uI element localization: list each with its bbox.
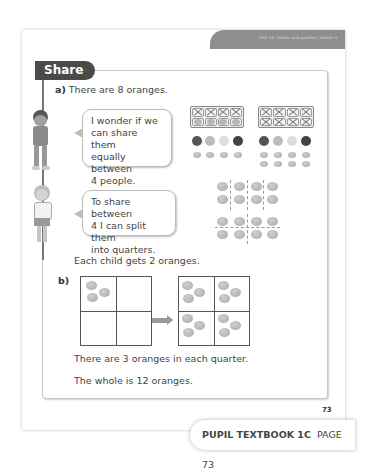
bubble-line: To share between <box>91 196 167 220</box>
orange-icon <box>302 152 310 158</box>
orange-icon <box>288 152 296 158</box>
orange-icon <box>194 321 205 330</box>
child-face-icon <box>273 136 283 146</box>
child-face-icon <box>205 136 215 146</box>
orange-icon <box>260 161 268 167</box>
orange-icon <box>234 152 242 158</box>
bubble-line: 4 people. <box>91 175 163 187</box>
orange-icon <box>193 152 201 158</box>
child-face-icon <box>287 136 297 146</box>
child-face-icon <box>219 136 229 146</box>
girl-character-icon <box>30 185 54 247</box>
footer-book: PUPIL TEXTBOOK 1C <box>202 429 311 440</box>
right-arrow-icon <box>152 318 168 323</box>
part-a-label: a) <box>55 84 66 95</box>
orange-icon <box>219 294 230 303</box>
child-face-icon <box>192 136 202 146</box>
bubble-line: can share them <box>91 127 163 151</box>
section-title: Share <box>35 61 95 80</box>
orange-icon <box>86 281 97 290</box>
page-number: 73 <box>322 406 332 414</box>
speech-bubble-girl: To share between 4 I can split them into… <box>82 190 176 236</box>
orange-icon <box>99 288 110 297</box>
orange-icon <box>260 152 268 158</box>
part-b-line2: The whole is 12 oranges. <box>74 375 193 386</box>
orange-icon <box>288 161 296 167</box>
orange-icon <box>182 281 193 290</box>
unit-lesson-text: Unit 14: Halves and quarters, Lesson 4 <box>259 35 337 40</box>
orange-icon <box>274 161 282 167</box>
footer-label: PUPIL TEXTBOOK 1C PAGE 73 <box>190 420 355 450</box>
orange-frame-right <box>258 106 314 128</box>
child-face-icon <box>301 136 311 146</box>
orange-icon <box>219 328 230 337</box>
orange-icon <box>274 152 282 158</box>
orange-icon <box>230 288 241 297</box>
child-face-icon <box>233 136 243 146</box>
orange-icon <box>87 293 98 302</box>
orange-icon <box>206 152 214 158</box>
orange-frame-left <box>190 106 244 128</box>
unit-lesson-header: Unit 14: Halves and quarters, Lesson 4 <box>210 30 345 49</box>
part-a-statement: a) There are 8 oranges. <box>55 84 168 95</box>
orange-icon <box>182 314 193 323</box>
orange-icon <box>194 288 205 297</box>
orange-icon <box>183 294 194 303</box>
orange-icon <box>218 314 229 323</box>
bubble-line: 4 I can split them <box>91 220 167 244</box>
orange-icon <box>230 321 241 330</box>
boy-character-icon <box>28 110 54 172</box>
orange-icon <box>220 152 228 158</box>
bubble-line: I wonder if we <box>91 115 163 127</box>
part-a-text: There are 8 oranges. <box>69 84 168 95</box>
part-a-conclusion: Each child gets 2 oranges. <box>74 255 200 266</box>
child-face-icon <box>259 136 269 146</box>
speech-bubble-boy: I wonder if we can share them equally be… <box>82 109 172 167</box>
orange-icon <box>218 281 229 290</box>
orange-icon <box>183 328 194 337</box>
bubble-line: equally between <box>91 151 163 175</box>
part-b-line1: There are 3 oranges in each quarter. <box>74 353 248 364</box>
orange-icon <box>302 161 310 167</box>
part-b-label: b) <box>58 275 69 286</box>
